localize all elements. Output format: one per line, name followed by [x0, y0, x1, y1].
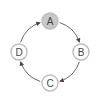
node-d: D — [11, 44, 27, 60]
node-b: B — [73, 44, 89, 60]
node-a: A — [42, 13, 58, 29]
node-d-label: D — [15, 47, 22, 58]
node-b-label: B — [78, 47, 85, 58]
edge-b-to-c — [60, 62, 80, 82]
node-c-label: C — [46, 78, 53, 89]
edges — [21, 23, 80, 82]
edge-a-to-b — [60, 23, 80, 43]
nodes: ABCD — [11, 13, 89, 91]
node-a-label: A — [47, 16, 54, 27]
cycle-diagram: ABCD — [0, 0, 100, 100]
node-c: C — [42, 75, 58, 91]
edge-c-to-d — [21, 62, 41, 82]
edge-d-to-a — [21, 23, 41, 43]
